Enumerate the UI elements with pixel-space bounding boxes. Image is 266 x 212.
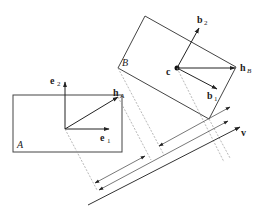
projection-distance-interval xyxy=(99,121,228,190)
svg-text:e: e xyxy=(50,75,55,86)
diagram-canvas: A e 2 e 1 h A B c b 2 b 1 h B xyxy=(0,0,266,212)
axis-v-label: v xyxy=(241,127,246,138)
projection-b-interval xyxy=(159,107,230,146)
axis-v xyxy=(88,127,240,205)
e2-label: e 2 xyxy=(50,75,61,88)
svg-text:1: 1 xyxy=(214,95,218,103)
svg-text:b: b xyxy=(197,14,203,25)
svg-text:A: A xyxy=(119,92,125,100)
b2-arrow xyxy=(177,28,199,68)
b1-label: b 1 xyxy=(207,90,218,103)
center-label: c xyxy=(166,66,171,77)
svg-text:b: b xyxy=(207,90,213,101)
b1-arrow xyxy=(177,68,217,89)
svg-text:1: 1 xyxy=(107,137,111,145)
svg-text:h: h xyxy=(240,62,246,73)
svg-text:h: h xyxy=(113,87,119,98)
box-b-label: B xyxy=(122,57,128,68)
b2-label: b 2 xyxy=(197,14,208,27)
ha-arrow xyxy=(65,97,118,129)
svg-text:2: 2 xyxy=(204,19,208,27)
svg-text:e: e xyxy=(100,132,105,143)
svg-text:B: B xyxy=(247,67,252,75)
ha-label: h A xyxy=(113,87,125,100)
e1-label: e 1 xyxy=(100,132,111,145)
hb-label: h B xyxy=(240,62,252,75)
box-a-label: A xyxy=(16,139,24,150)
svg-text:2: 2 xyxy=(57,80,61,88)
box-a xyxy=(13,95,122,152)
